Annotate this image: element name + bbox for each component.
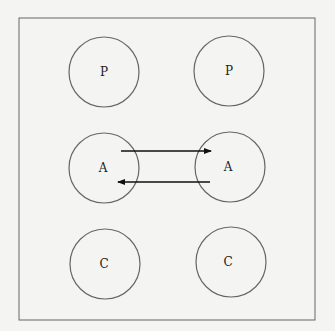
- node-a-left: A: [69, 133, 139, 203]
- node-p-right: P: [194, 36, 264, 106]
- node-c-right: C: [196, 227, 266, 297]
- node-c-left: C: [70, 229, 140, 299]
- node-label: C: [223, 255, 232, 269]
- frame: [19, 18, 315, 320]
- node-label: A: [223, 160, 233, 174]
- node-a-right: A: [195, 132, 265, 202]
- node-p-left: P: [69, 37, 139, 107]
- node-label: P: [100, 65, 108, 79]
- node-label: P: [225, 64, 233, 78]
- diagram-canvas: P P A A C C: [0, 0, 335, 331]
- node-label: C: [99, 257, 108, 271]
- node-label: A: [98, 161, 108, 175]
